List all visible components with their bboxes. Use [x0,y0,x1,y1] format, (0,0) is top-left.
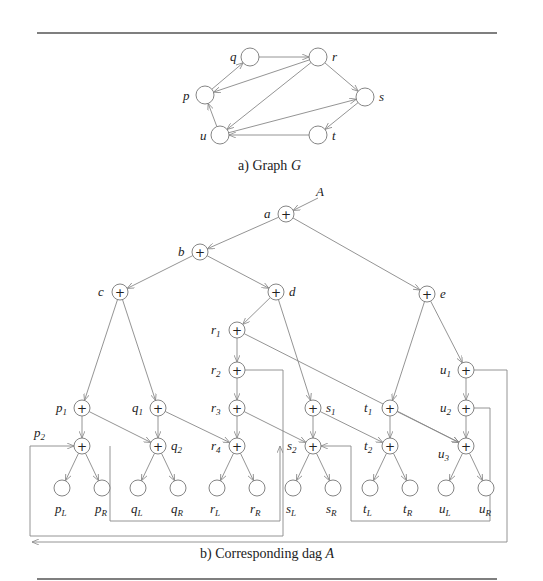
edge-leaf-rR [240,453,253,481]
leaf-label-sR: sR [326,501,337,518]
edge-a-b [207,217,278,249]
leaf-label-qL: qL [131,501,143,518]
edge-leaf-qR [161,453,174,481]
node-label-p: p [182,88,190,103]
node-u [211,126,229,144]
op-label-c: c [98,284,104,299]
plus-icon: + [308,402,318,416]
plus-icon: + [195,246,205,260]
leaf-uL [438,480,454,496]
plus-icon: + [308,440,318,454]
figure-canvas: pqrstu a) Graph G ApLpRqLqRrLrRsLsRtLtRu… [0,0,543,581]
plus-icon: + [385,402,395,416]
leaf-qL [130,480,146,496]
plus-icon: + [271,286,281,300]
op-label-r4: r4 [211,438,221,455]
edge-b-c [127,256,193,289]
edge-r1-u3 [244,334,459,443]
edge-leaf-tL [373,453,386,481]
plus-icon: + [77,402,87,416]
op-label-s2: s2 [287,438,297,455]
op-label-r3: r3 [211,400,221,417]
op-label-s1: s1 [326,400,336,417]
op-label-r1: r1 [211,322,221,339]
leaf-label-tL: tL [363,501,372,518]
op-label-p2: p2 [33,425,46,442]
op-label-e: e [440,286,446,301]
leaf-sL [285,480,301,496]
plus-icon: + [232,364,242,378]
edge-leaf-pL [65,453,78,481]
edge-e-u1 [431,301,463,363]
node-label-q: q [230,49,237,64]
op-label-t2: t2 [364,438,373,455]
plus-icon: + [422,288,432,302]
root-pointer-label: A [315,184,324,199]
edge-leaf-rL [220,453,233,481]
edge-r-s [325,63,358,91]
plus-icon: + [153,440,163,454]
edge-leaf-tR [393,453,406,481]
plus-icon: + [77,440,87,454]
leaf-label-pR: pR [94,501,108,518]
plus-icon: + [232,440,242,454]
op-label-p1: p1 [55,400,67,417]
dag-a: ApLpRqLqRrLrRsLsRtLtRuLuR+a+b+c+d+e+r1+r… [30,184,507,542]
node-s [356,88,374,106]
edge-u-p [208,103,217,126]
op-label-u1: u1 [440,362,451,379]
op-label-q1: q1 [132,400,143,417]
op-label-d: d [289,284,296,299]
caption-a: a) Graph G [238,158,301,174]
edge-b-d [207,256,269,289]
leaf-sR [325,480,341,496]
op-label-u2: u2 [440,400,452,417]
edge-u-s [229,99,357,132]
plus-icon: + [281,208,291,222]
edge-c-q1 [122,300,155,401]
leaf-tR [402,480,418,496]
edge-s-t [325,103,358,130]
leaf-label-rR: rR [250,501,261,518]
node-label-t: t [332,128,336,143]
edge-leaf-uL [449,453,462,481]
edge-a-e [293,218,420,290]
node-label-s: s [379,89,384,104]
leaf-label-sL: sL [286,501,296,518]
leaf-tL [362,480,378,496]
node-p [196,86,214,104]
leaf-qR [170,480,186,496]
graph-g: pqrstu [182,48,384,144]
edge-leaf-sL [296,453,309,481]
edge-leaf-qL [141,453,154,481]
node-t [309,126,327,144]
edge-leaf-uR [469,453,482,481]
plus-icon: + [461,402,471,416]
leaf-label-qR: qR [171,501,184,518]
edge-s1-t2 [320,412,383,443]
plus-icon: + [153,402,163,416]
plus-icon: + [232,324,242,338]
plus-icon: + [461,364,471,378]
op-label-r2: r2 [211,362,221,379]
leaf-rL [209,480,225,496]
leaf-pL [54,480,70,496]
edge-c-p1 [84,300,117,401]
op-label-q2: q2 [171,438,183,455]
edge-r-u [227,63,311,130]
leaf-rR [249,480,265,496]
edge-leaf-sR [316,453,329,481]
edge-d-r1 [243,298,271,325]
plus-icon: + [115,286,125,300]
leaf-label-pL: pL [54,501,67,518]
edge-p-q [212,63,243,89]
plus-icon: + [232,402,242,416]
op-label-t1: t1 [364,400,372,417]
node-label-r: r [332,49,338,64]
edge-r3-s2 [244,412,306,443]
plus-icon: + [461,440,471,454]
leaf-uR [478,480,494,496]
caption-b: b) Corresponding dag A [200,546,335,562]
leaf-label-uL: uL [439,501,451,518]
node-r [309,48,327,66]
